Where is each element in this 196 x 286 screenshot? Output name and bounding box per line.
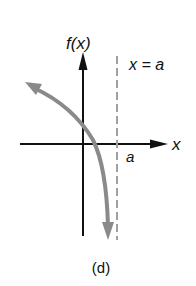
function-curve: [25, 82, 114, 240]
curve-arrow-up-left-icon: [25, 82, 42, 95]
y-axis-arrow-icon: [79, 52, 88, 70]
figure-caption: (d): [92, 259, 110, 276]
y-axis-label: f(x): [66, 34, 91, 53]
asymptote-label: x = a: [128, 56, 164, 73]
curve-arrow-down-icon: [102, 222, 114, 240]
intercept-label: a: [126, 148, 134, 165]
graph-diagram: f(x) x x = a a (d): [0, 0, 196, 286]
x-axis-label: x: [171, 135, 181, 154]
x-axis-arrow-icon: [150, 140, 168, 149]
